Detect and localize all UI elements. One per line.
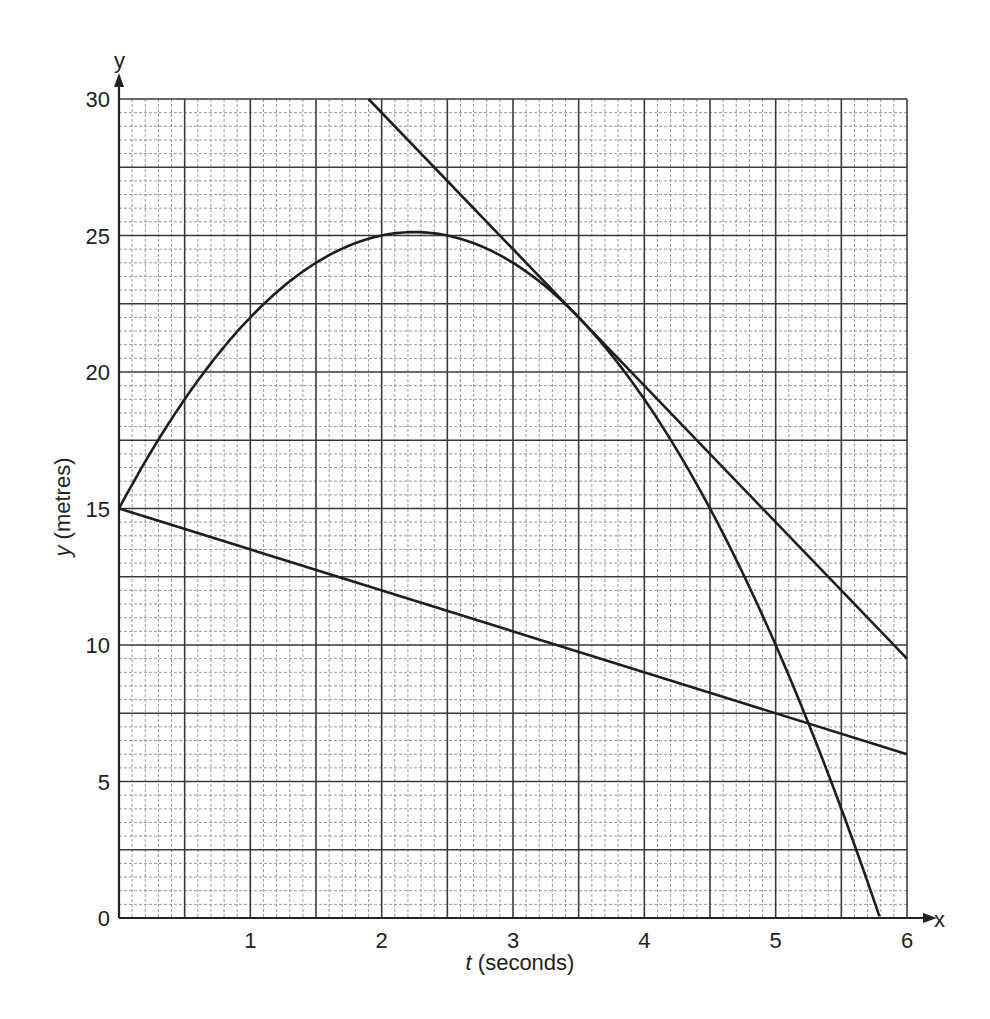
y-axis-letter: y bbox=[114, 48, 125, 73]
y-tick-label: 0 bbox=[98, 906, 110, 931]
x-tick-label: 6 bbox=[901, 928, 913, 953]
x-axis-label: t (seconds) bbox=[466, 950, 575, 975]
y-axis-arrow-icon bbox=[114, 73, 124, 87]
series-tangent bbox=[369, 99, 907, 659]
y-tick-label: 15 bbox=[86, 497, 110, 522]
x-tick-label: 4 bbox=[638, 928, 650, 953]
x-tick-label: 5 bbox=[770, 928, 782, 953]
x-tick-label: 1 bbox=[244, 928, 256, 953]
y-tick-label: 10 bbox=[86, 633, 110, 658]
y-axis-label: y (metres) bbox=[50, 458, 75, 559]
y-tick-label: 5 bbox=[98, 770, 110, 795]
y-tick-label: 30 bbox=[86, 87, 110, 112]
x-axis-letter: x bbox=[934, 907, 945, 932]
series-curve bbox=[119, 232, 879, 916]
x-axis-label-unit: (seconds) bbox=[472, 950, 575, 975]
y-axis-label-unit: (metres) bbox=[50, 458, 75, 546]
y-tick-label: 25 bbox=[86, 224, 110, 249]
y-tick-label: 20 bbox=[86, 360, 110, 385]
chart-canvas: 123456051015202530 x y t (seconds) y (me… bbox=[0, 0, 990, 1019]
x-tick-label: 2 bbox=[376, 928, 388, 953]
